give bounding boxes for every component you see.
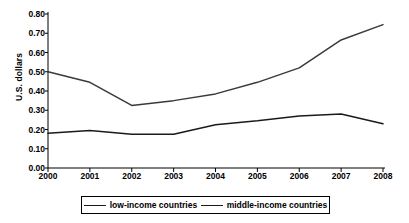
series-line-low-income-countries (48, 114, 383, 134)
series-line-middle-income-countries (48, 25, 383, 106)
line-chart: U.S. dollars 0.000.100.200.300.400.500.6… (0, 0, 409, 223)
chart-legend: low-income countries middle-income count… (81, 196, 330, 214)
legend-label-low-income: low-income countries (110, 201, 197, 210)
legend-line-swatch-middle-income (201, 205, 223, 206)
legend-item-middle-income: middle-income countries (201, 201, 328, 210)
legend-line-swatch-low-income (84, 205, 106, 206)
legend-label-middle-income: middle-income countries (227, 201, 328, 210)
legend-item-low-income: low-income countries (84, 201, 197, 210)
plot-area (0, 0, 409, 223)
